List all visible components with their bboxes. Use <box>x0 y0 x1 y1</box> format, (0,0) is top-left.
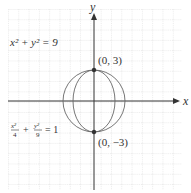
point-top <box>92 68 96 72</box>
x-axis-label: x <box>182 94 189 108</box>
circle-equation: x² + y² = 9 <box>9 36 58 48</box>
y-axis-label: y <box>89 0 96 14</box>
svg-text:+: + <box>23 124 29 135</box>
svg-text:4: 4 <box>13 131 17 139</box>
point-bottom-label: (0, −3) <box>98 136 128 149</box>
svg-text:x²: x² <box>10 122 17 130</box>
graph: x y (0, 3) (0, −3) x² + y² = 9 x² 4 + y²… <box>0 0 191 193</box>
point-top-label: (0, 3) <box>98 54 122 67</box>
svg-text:9: 9 <box>36 131 40 139</box>
svg-text:= 1: = 1 <box>45 124 58 135</box>
point-bottom <box>92 130 96 134</box>
svg-text:y²: y² <box>33 122 40 130</box>
